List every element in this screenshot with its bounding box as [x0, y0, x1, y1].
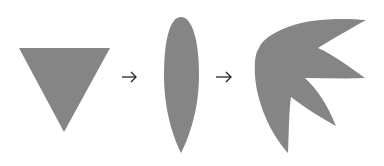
diagram	[0, 0, 384, 166]
leaf-shape	[255, 19, 366, 153]
right-arrow-icon	[216, 72, 231, 82]
diagram-canvas	[0, 0, 384, 166]
inverted-triangle-shape	[19, 48, 110, 132]
ellipse-shape	[164, 17, 199, 153]
right-arrow-icon	[122, 72, 136, 82]
